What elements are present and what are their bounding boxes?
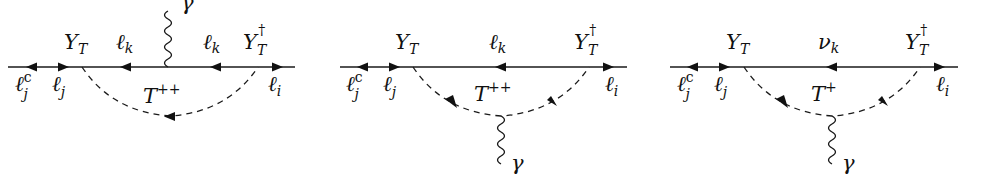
feynman-diagrams-figure: γ YT ℓk ℓk YT† ℓcj ℓj ℓi T++ γ YT ℓk YT†… [0,0,990,183]
arrow-down-left-icon [445,95,457,108]
photon-label: γ [181,0,194,15]
arrow-down-left-icon [878,96,888,106]
vertex-left-label: YT [64,30,89,57]
external-left-inner-label: ℓj [52,72,66,100]
arrow-left-icon [120,63,131,72]
external-left-outer-label: ℓcj [346,69,363,102]
external-left-inner-label: ℓj [714,72,728,100]
diagram-2: γ YT ℓk YT† ℓcj ℓj ℓi T++ [340,22,627,175]
vertex-right-label: YT† [243,22,268,58]
arrow-left-icon [826,63,837,72]
external-left-inner-label: ℓj [383,72,397,100]
arrow-down-left-icon [547,96,557,106]
external-left-outer-label: ℓcj [677,69,694,102]
photon-label: γ [842,151,855,175]
arrow-left-icon [210,63,221,72]
diagram-1: γ YT ℓk ℓk YT† ℓcj ℓj ℓi T++ [8,0,295,121]
arrow-right-icon [719,63,730,72]
arrow-right-icon [934,63,945,72]
arrow-left-icon [495,63,506,72]
arrow-right-icon [272,63,283,72]
photon-label: γ [511,151,524,175]
scalar-label: T++ [474,79,511,106]
external-right-label: ℓi [936,72,949,99]
internal-fermion-label: νk [818,30,839,56]
internal-fermion-left-label: ℓk [116,30,133,56]
scalar-label: T++ [143,81,180,108]
arrow-down-left-icon [776,95,788,108]
arrow-right-icon [389,63,400,72]
arrow-right-icon [603,63,614,72]
vertex-left-label: YT [726,30,751,57]
vertex-right-label: YT† [574,22,599,58]
vertex-left-label: YT [395,30,420,57]
arrow-left-icon [164,112,175,121]
internal-fermion-label: ℓk [489,30,506,56]
diagram-3: γ YT νk YT† ℓcj ℓj ℓi T+ [670,22,958,175]
external-right-label: ℓi [268,72,281,99]
photon-wavy-line [498,116,505,164]
external-left-outer-label: ℓcj [15,69,32,102]
internal-fermion-right-label: ℓk [203,30,220,56]
arrow-right-icon [58,63,69,72]
scalar-label: T+ [811,79,837,106]
photon-wavy-line [829,116,836,164]
photon-wavy-line [165,11,172,67]
vertex-right-label: YT† [905,22,930,58]
external-right-label: ℓi [605,72,618,99]
